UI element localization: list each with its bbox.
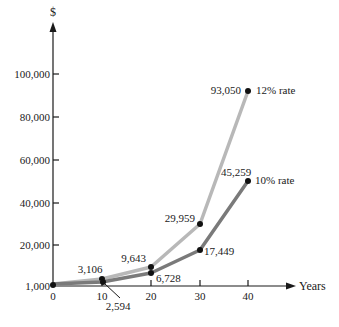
y-axis-arrow-icon <box>50 22 57 32</box>
series-10-label-30: 17,449 <box>204 245 235 257</box>
y-tick-80000: 80,000 <box>20 111 51 123</box>
x-axis-arrow-icon <box>286 283 296 290</box>
series-10-point-20 <box>148 270 154 276</box>
y-tick-60000: 60,000 <box>20 154 51 166</box>
y-tick-20000: 20,000 <box>20 239 51 251</box>
y-axis: $ 100,000 80,000 60,000 40,000 20,000 1,… <box>14 5 59 292</box>
series-10-label-10: 2,594 <box>106 300 131 312</box>
x-tick-40: 40 <box>243 290 255 302</box>
series-12-label-30: 29,959 <box>165 212 196 224</box>
series-10-point-0 <box>50 282 56 288</box>
y-tick-100000: 100,000 <box>14 68 50 80</box>
series-12-name: 12% rate <box>256 84 296 96</box>
series-10-label-40: 45,259 <box>221 166 252 178</box>
x-tick-0: 0 <box>50 290 56 302</box>
series-12-label-10: 3,106 <box>78 263 103 275</box>
series-10-percent: 2,594 6,728 17,449 45,259 10% rate <box>50 166 295 312</box>
x-tick-20: 20 <box>146 290 158 302</box>
series-12-point-30 <box>197 221 203 227</box>
y-tick-40000: 40,000 <box>20 197 51 209</box>
y-tick-1000: 1,000 <box>25 280 50 292</box>
series-10-point-40 <box>245 178 251 184</box>
series-10-point-30 <box>197 247 203 253</box>
x-tick-30: 30 <box>195 290 207 302</box>
series-12-label-20: 9,643 <box>121 252 146 264</box>
y-axis-title: $ <box>50 5 56 19</box>
series-10-name: 10% rate <box>255 174 295 186</box>
compound-growth-chart: $ 100,000 80,000 60,000 40,000 20,000 1,… <box>0 0 339 327</box>
series-12-point-40 <box>245 88 251 94</box>
series-10-label-20: 6,728 <box>156 272 181 284</box>
series-12-point-20 <box>148 264 154 270</box>
series-12-label-40: 93,050 <box>211 84 242 96</box>
x-axis-title: Years <box>299 279 326 293</box>
